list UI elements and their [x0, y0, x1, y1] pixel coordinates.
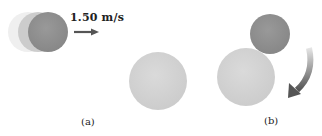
velocity-arrow-icon	[74, 29, 99, 36]
large-sphere	[217, 48, 275, 106]
small-sphere-contact	[250, 14, 290, 54]
panel-a	[8, 12, 187, 110]
panel-b	[217, 14, 310, 106]
caption-b: (b)	[264, 115, 278, 126]
small-sphere-moving	[28, 12, 68, 52]
velocity-label: 1.50 m/s	[70, 11, 124, 24]
curved-arrow-icon	[288, 48, 310, 98]
caption-a: (a)	[81, 116, 95, 127]
large-sphere-at-rest	[129, 52, 187, 110]
